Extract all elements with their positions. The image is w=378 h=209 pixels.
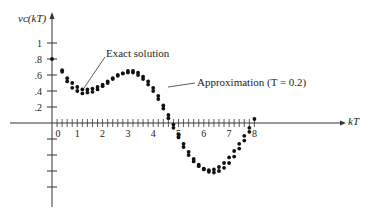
exact-solution-label: Exact solution (106, 47, 170, 59)
y-tick-label: .8 (35, 54, 43, 65)
approx-point (202, 167, 206, 171)
x-tick-label: 4 (151, 128, 156, 139)
exact-point (75, 85, 79, 89)
approx-point (222, 166, 226, 170)
approx-point (217, 169, 221, 173)
exact-point (80, 88, 84, 92)
exact-point (232, 149, 236, 153)
exact-point (222, 161, 226, 165)
approx-leader-line (168, 83, 195, 87)
approx-point (60, 70, 64, 74)
x-tick-label: 6 (201, 128, 206, 139)
exact-point (237, 142, 241, 146)
approx-point (86, 91, 90, 95)
approx-point (91, 90, 95, 94)
exact-point (50, 57, 54, 61)
approx-point (237, 147, 241, 151)
approx-point (101, 84, 105, 88)
approx-point (212, 171, 216, 175)
exact-point (253, 117, 257, 121)
approx-point (80, 92, 84, 96)
y-tick-label: .4 (35, 86, 43, 97)
x-tick-label: 0 (56, 128, 61, 139)
approx-point (247, 130, 251, 134)
exact-point (70, 81, 74, 85)
approx-point (65, 80, 69, 84)
annotations: Exact solutionApproximation (T = 0.2) (84, 47, 307, 89)
approx-point (227, 161, 231, 165)
approx-point (106, 81, 110, 85)
approx-point (161, 104, 165, 108)
approx-point (126, 69, 130, 73)
approx-point (96, 88, 100, 92)
approx-point (141, 75, 145, 79)
y-tick-label: .2 (35, 102, 43, 113)
approx-point (197, 163, 201, 167)
exact-point (227, 156, 231, 160)
approx-point (207, 170, 211, 174)
approx-point (146, 80, 150, 84)
approx-point (75, 89, 79, 93)
approx-point (151, 86, 155, 90)
y-axis-arrow-icon (50, 12, 55, 19)
y-tick-label: .6 (35, 70, 43, 81)
approx-point (232, 155, 236, 159)
approx-point (131, 69, 135, 73)
exact-point (242, 134, 246, 138)
x-tick-label: 1 (75, 128, 80, 139)
approximation-label: Approximation (T = 0.2) (197, 76, 307, 89)
y-tick-label: 1 (37, 38, 42, 49)
approx-point (242, 139, 246, 143)
approx-point (156, 94, 160, 98)
x-axis-label: kT (348, 115, 360, 127)
approx-point (182, 142, 186, 146)
approx-point (136, 71, 140, 75)
approx-point (111, 77, 115, 81)
approx-point (116, 74, 120, 78)
approx-point (177, 132, 181, 136)
y-axis-label: vᴄ(kT) (18, 12, 47, 25)
approx-point (70, 86, 74, 90)
x-tick-label: 3 (125, 128, 130, 139)
chart: 0123456781.8.6.4.2 Exact solutionApproxi… (0, 0, 378, 209)
approx-point (187, 150, 191, 154)
approx-point (172, 123, 176, 127)
x-axis-arrow-icon (340, 121, 346, 126)
approx-point (121, 72, 125, 76)
x-tick-label: 8 (252, 128, 257, 139)
approx-point (192, 157, 196, 161)
approx-point (166, 113, 170, 117)
x-tick-label: 7 (227, 128, 232, 139)
exact-point (217, 165, 221, 169)
axes (10, 12, 346, 207)
data-points (50, 57, 256, 174)
exact-point (247, 126, 251, 130)
x-tick-label: 2 (100, 128, 105, 139)
